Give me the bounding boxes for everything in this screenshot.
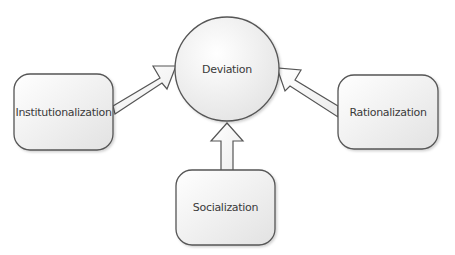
socialization-label: Socialization <box>176 198 275 216</box>
institutionalization-label: Institutionalization <box>14 103 113 121</box>
arrow-rationalization-to-deviation <box>277 68 338 117</box>
deviation-label: Deviation <box>175 60 279 78</box>
rationalization-label: Rationalization <box>338 103 438 121</box>
arrow-socialization-to-deviation <box>211 123 243 171</box>
arrow-institutionalization-to-deviation <box>113 66 176 114</box>
diagram-canvas <box>0 0 455 255</box>
